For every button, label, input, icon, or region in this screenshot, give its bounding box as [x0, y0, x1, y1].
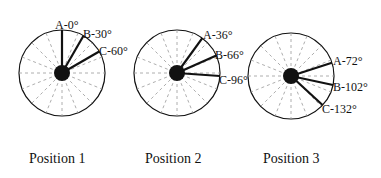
- label-b-pos3: B-102°: [333, 81, 368, 93]
- caption-position-1: Position 1: [29, 151, 85, 167]
- label-a-pos2: A-36°: [203, 29, 232, 41]
- caption-position-3: Position 3: [263, 151, 319, 167]
- label-a-pos1: A-0°: [55, 19, 78, 31]
- label-a-pos3: A-72°: [333, 55, 362, 67]
- dial-position-2: [134, 30, 220, 116]
- label-b-pos2: B-66°: [215, 49, 244, 61]
- dial-position-1: [19, 30, 105, 116]
- label-c-pos1: C-60°: [99, 45, 128, 57]
- caption-position-2: Position 2: [145, 151, 201, 167]
- label-b-pos1: B-30°: [83, 28, 112, 40]
- label-c-pos3: C-132°: [322, 103, 357, 115]
- label-c-pos2: C-96°: [219, 74, 248, 86]
